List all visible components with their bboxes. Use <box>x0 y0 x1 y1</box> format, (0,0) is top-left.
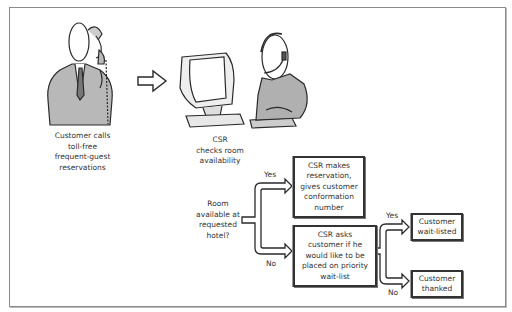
customer-on-phone-icon <box>48 23 113 125</box>
room-no-label: No <box>266 259 276 268</box>
waitlist-decision-branch-arrows <box>376 220 409 288</box>
room-decision-branch-arrows <box>242 179 292 258</box>
customer-call-label: Customer calls toll-free frequent-guest … <box>30 131 135 173</box>
csr-check-label: CSR checks room availability <box>180 135 260 167</box>
flow-arrow-icon <box>138 71 166 91</box>
csr-reserve-box: CSR makes reservation, gives customer co… <box>293 156 365 218</box>
customer-thanked-box: Customer thanked <box>411 270 463 298</box>
csr-ask-waitlist-box: CSR asks customer if he would like to be… <box>293 225 377 287</box>
csr-at-computer-icon <box>180 33 307 128</box>
waitlist-yes-label: Yes <box>386 211 398 220</box>
room-decision-label: Room available at requested hotel? <box>190 199 246 241</box>
room-yes-label: Yes <box>264 170 276 179</box>
customer-waitlisted-box: Customer wait-listed <box>411 213 463 241</box>
waitlist-no-label: No <box>388 288 398 297</box>
